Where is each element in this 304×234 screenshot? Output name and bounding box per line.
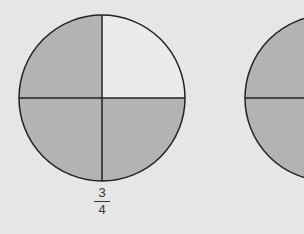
fraction-diagram (0, 0, 304, 234)
fraction-circle-2 (245, 15, 304, 181)
numerator: 3 (92, 186, 112, 200)
denominator: 4 (92, 203, 112, 217)
fraction-label: 3 4 (92, 186, 112, 217)
fraction-circle-1 (19, 15, 185, 181)
